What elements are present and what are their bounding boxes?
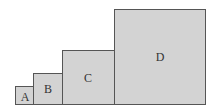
label-d: D: [156, 50, 165, 65]
label-c: C: [84, 71, 92, 86]
label-a: A: [21, 90, 30, 105]
label-b: B: [44, 82, 52, 97]
